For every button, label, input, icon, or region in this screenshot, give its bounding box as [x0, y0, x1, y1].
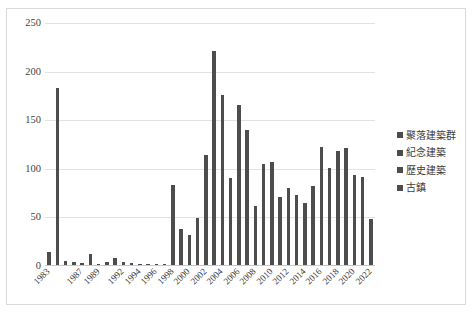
bar	[237, 105, 240, 266]
legend-swatch-icon	[397, 150, 403, 156]
y-tick-label: 100	[25, 164, 41, 174]
bar	[262, 164, 265, 266]
bar	[353, 175, 356, 266]
bar	[344, 148, 347, 266]
bar	[369, 219, 372, 266]
x-tick-label: 1987	[66, 267, 85, 286]
y-tick-label: 150	[25, 115, 41, 125]
x-tick-label: 2016	[305, 267, 324, 286]
x-tick-label: 2000	[173, 267, 192, 286]
bar	[188, 235, 191, 266]
bar	[270, 162, 273, 266]
bar-series-group	[45, 23, 375, 266]
y-axis-labels: 050100150200250	[7, 23, 41, 266]
x-tick-label: 2008	[239, 267, 258, 286]
y-tick-label: 50	[31, 212, 42, 222]
x-tick-label: 2012	[272, 267, 291, 286]
y-tick-label: 250	[25, 18, 41, 28]
legend-item[interactable]: 紀念建築	[397, 147, 473, 159]
x-tick-label: 2020	[338, 267, 357, 286]
legend-item-label: 歷史建築	[406, 165, 446, 176]
bar	[245, 130, 248, 266]
bar	[311, 186, 314, 266]
bar	[221, 95, 224, 266]
bar	[336, 151, 339, 266]
x-tick-label: 1992	[107, 267, 126, 286]
legend-swatch-icon	[397, 132, 403, 138]
legend-item[interactable]: 歷史建築	[397, 164, 473, 176]
legend-item-label: 古鎮	[406, 182, 426, 193]
bar	[212, 51, 215, 266]
bar	[254, 206, 257, 266]
bar	[47, 252, 50, 266]
x-tick-label: 2022	[354, 267, 373, 286]
legend-item[interactable]: 聚落建築群	[397, 129, 473, 141]
bar	[229, 178, 232, 266]
bar	[196, 218, 199, 266]
legend-item[interactable]: 古鎮	[397, 182, 473, 194]
bar	[56, 88, 59, 266]
bar	[171, 185, 174, 266]
legend-swatch-icon	[397, 185, 403, 191]
chart-frame: 050100150200250 198319871989199219941996…	[6, 8, 466, 305]
bar	[204, 155, 207, 266]
bar	[320, 147, 323, 266]
bar	[361, 177, 364, 266]
y-tick-label: 200	[25, 67, 41, 77]
legend-item-label: 紀念建築	[406, 147, 446, 158]
bar	[179, 229, 182, 266]
x-axis-labels: 1983198719891992199419961998200020022004…	[45, 267, 375, 313]
bar	[328, 168, 331, 266]
bar	[278, 197, 281, 266]
bar	[295, 195, 298, 266]
chart-legend: 聚落建築群紀念建築歷史建築古鎮	[397, 129, 473, 199]
legend-swatch-icon	[397, 167, 403, 173]
legend-item-label: 聚落建築群	[406, 130, 456, 141]
x-tick-label: 1989	[82, 267, 101, 286]
x-tick-label: 1996	[140, 267, 159, 286]
bar	[303, 203, 306, 266]
plot-area	[45, 23, 375, 266]
bar	[287, 188, 290, 266]
x-tick-label: 2004	[206, 267, 225, 286]
